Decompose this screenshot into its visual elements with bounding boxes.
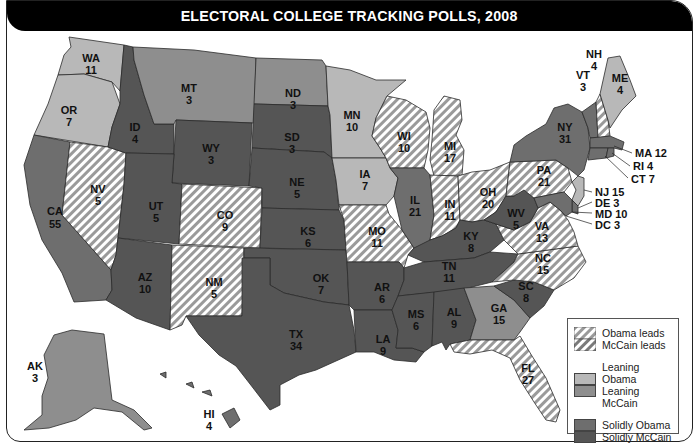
svg-text:13: 13	[536, 232, 548, 244]
svg-text:11: 11	[85, 64, 97, 76]
legend-label-obama-leads: Obama leads	[602, 327, 666, 339]
svg-text:AK: AK	[27, 360, 43, 372]
svg-text:IL: IL	[410, 194, 420, 206]
svg-text:9: 9	[451, 318, 457, 330]
svg-text:FL: FL	[521, 362, 535, 374]
legend-label-solidly-obama: Solidly Obama	[602, 419, 671, 431]
svg-text:AL: AL	[447, 306, 462, 318]
legend-swatch-solidly-mccain	[574, 431, 596, 443]
svg-text:NE: NE	[289, 176, 304, 188]
svg-text:4: 4	[132, 133, 139, 145]
svg-text:VT: VT	[576, 69, 590, 81]
svg-text:WV: WV	[507, 207, 525, 219]
svg-text:7: 7	[66, 116, 72, 128]
svg-text:MT: MT	[181, 82, 197, 94]
svg-text:CA: CA	[47, 205, 63, 217]
legend-group-solid: Solidly Obama Solidly McCain	[574, 419, 672, 443]
svg-text:GA: GA	[491, 302, 508, 314]
svg-text:3: 3	[580, 81, 586, 93]
svg-text:ND: ND	[285, 87, 301, 99]
svg-text:4: 4	[591, 60, 598, 72]
callout-ma: MA 12	[635, 147, 667, 159]
svg-text:7: 7	[362, 180, 368, 192]
svg-text:WA: WA	[82, 52, 100, 64]
svg-text:3: 3	[208, 154, 214, 166]
svg-text:OK: OK	[313, 272, 330, 284]
legend-label-mccain-leads: McCain leads	[602, 339, 666, 351]
svg-text:6: 6	[413, 320, 419, 332]
svg-text:17: 17	[444, 152, 456, 164]
svg-text:5: 5	[95, 195, 101, 207]
state-CT[interactable]	[588, 148, 608, 160]
svg-text:34: 34	[290, 340, 303, 352]
svg-text:ME: ME	[612, 72, 629, 84]
svg-text:11: 11	[371, 237, 383, 249]
svg-text:OH: OH	[480, 186, 497, 198]
svg-text:MO: MO	[368, 225, 386, 237]
svg-text:55: 55	[49, 218, 61, 230]
svg-text:OR: OR	[61, 104, 78, 116]
svg-text:HI: HI	[204, 408, 215, 420]
svg-text:31: 31	[559, 133, 571, 145]
legend-label-leaning-obama: Leaning Obama	[602, 361, 672, 385]
svg-text:6: 6	[305, 237, 311, 249]
svg-text:NH: NH	[586, 48, 602, 60]
legend-group-leads: Obama leads McCain leads	[574, 327, 672, 351]
svg-text:4: 4	[617, 84, 624, 96]
svg-text:ID: ID	[130, 121, 141, 133]
svg-text:21: 21	[409, 206, 421, 218]
svg-text:10: 10	[346, 121, 358, 133]
svg-text:NV: NV	[90, 183, 106, 195]
svg-text:NC: NC	[535, 252, 551, 264]
svg-text:AZ: AZ	[138, 271, 153, 283]
svg-text:KY: KY	[463, 230, 479, 242]
svg-text:8: 8	[523, 292, 529, 304]
legend-swatch-solidly-obama	[574, 419, 596, 431]
svg-text:NY: NY	[557, 121, 573, 133]
svg-text:9: 9	[222, 221, 228, 233]
svg-text:21: 21	[538, 176, 550, 188]
callout-dc: DC 3	[595, 219, 620, 231]
state-HI[interactable]	[160, 372, 240, 428]
callout-ri: RI 4	[633, 160, 654, 172]
svg-text:5: 5	[513, 219, 519, 231]
svg-text:NM: NM	[205, 276, 222, 288]
svg-text:WI: WI	[397, 130, 410, 142]
state-MI[interactable]	[430, 96, 464, 176]
svg-text:10: 10	[398, 142, 410, 154]
svg-text:KS: KS	[300, 225, 315, 237]
svg-text:AR: AR	[374, 281, 390, 293]
svg-text:27: 27	[522, 374, 534, 386]
state-AK[interactable]	[24, 330, 152, 430]
svg-text:11: 11	[444, 210, 456, 222]
svg-text:3: 3	[289, 143, 295, 155]
svg-text:5: 5	[294, 188, 300, 200]
legend-label-solidly-mccain: Solidly McCain	[602, 431, 671, 443]
svg-text:5: 5	[153, 212, 159, 224]
svg-text:TX: TX	[289, 328, 304, 340]
svg-text:IN: IN	[445, 198, 456, 210]
svg-text:20: 20	[482, 198, 494, 210]
svg-text:SD: SD	[284, 131, 299, 143]
callout-ct: CT 7	[631, 173, 655, 185]
svg-text:15: 15	[493, 314, 505, 326]
svg-text:CO: CO	[217, 209, 234, 221]
legend-label-leaning-mccain: Leaning McCain	[602, 385, 672, 409]
svg-text:SC: SC	[518, 280, 533, 292]
legend-swatch-leaning-obama	[574, 373, 596, 385]
svg-text:9: 9	[380, 345, 386, 357]
legend-group-leaning: Leaning Obama Leaning McCain	[574, 361, 672, 409]
svg-text:6: 6	[379, 293, 385, 305]
svg-text:3: 3	[186, 94, 192, 106]
legend-swatch-leads	[574, 327, 596, 351]
state-FL[interactable]	[450, 336, 560, 422]
svg-text:TN: TN	[442, 260, 457, 272]
svg-text:7: 7	[318, 284, 324, 296]
svg-text:3: 3	[32, 372, 38, 384]
svg-text:3: 3	[290, 99, 296, 111]
svg-text:4: 4	[206, 420, 213, 432]
svg-text:MI: MI	[444, 140, 456, 152]
svg-text:VA: VA	[535, 220, 550, 232]
state-UT[interactable]	[118, 153, 182, 244]
svg-text:10: 10	[139, 283, 151, 295]
